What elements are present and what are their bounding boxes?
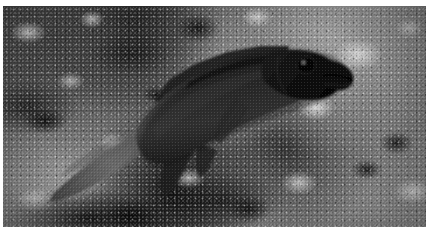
- reef-fish: [3, 6, 426, 227]
- tail-fin: [49, 128, 147, 202]
- photograph-plate: [3, 6, 426, 227]
- photo-frame: Black and white underwater photograph of…: [0, 0, 429, 235]
- fish-halo: [140, 49, 349, 166]
- fish-silhouette: [3, 6, 426, 227]
